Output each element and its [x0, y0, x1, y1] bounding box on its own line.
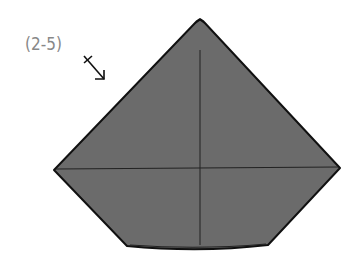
fold-arrow-icon	[84, 56, 104, 79]
origami-diagram	[0, 0, 362, 260]
paper-model	[54, 19, 340, 249]
